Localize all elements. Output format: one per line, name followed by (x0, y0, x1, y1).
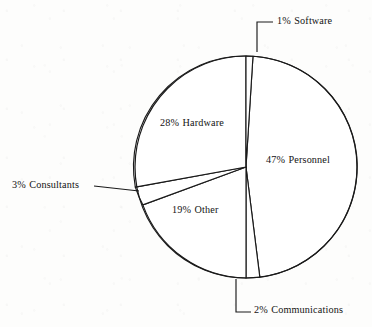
pie-chart-figure: 1%Software 28%Hardware 47%Personnel 3%Co… (0, 0, 372, 327)
leader-line-consultants (94, 186, 139, 191)
leader-line-communications (236, 279, 251, 312)
slice-label-other: 19%Other (172, 204, 218, 216)
leader-line-software (257, 22, 273, 52)
slice-name-software: Software (294, 15, 332, 26)
slice-label-software: 1%Software (277, 15, 332, 27)
slice-name-personnel: Personnel (288, 154, 330, 165)
slice-percent-personnel: 47% (266, 154, 285, 165)
slice-percent-hardware: 28% (160, 117, 179, 128)
slice-percent-communications: 2% (254, 304, 268, 315)
slice-name-hardware: Hardware (182, 117, 223, 128)
pie-slice-personnel (246, 56, 357, 277)
slice-name-communications: Communications (271, 304, 343, 315)
slice-label-consultants: 3%Consultants (12, 179, 79, 191)
slice-label-personnel: 47%Personnel (266, 154, 330, 166)
slice-label-communications: 2%Communications (254, 304, 343, 316)
slice-label-hardware: 28%Hardware (160, 117, 224, 129)
slice-percent-software: 1% (277, 15, 291, 26)
slice-name-other: Other (194, 204, 218, 215)
slice-percent-consultants: 3% (12, 179, 26, 190)
slice-name-consultants: Consultants (29, 179, 79, 190)
slice-percent-other: 19% (172, 204, 191, 215)
